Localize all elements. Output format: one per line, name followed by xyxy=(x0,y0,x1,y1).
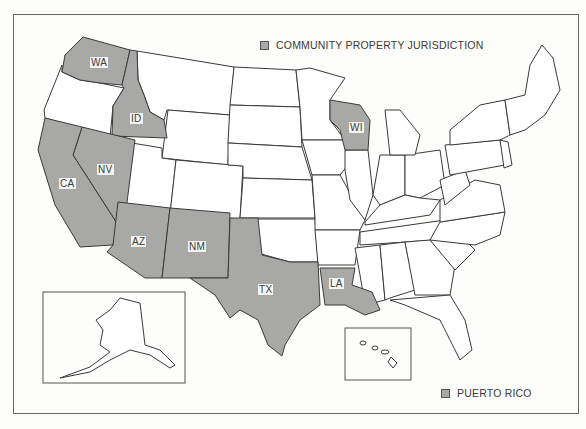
legend-community-property: COMMUNITY PROPERTY JURISDICTION xyxy=(260,39,483,51)
state-new-england xyxy=(505,45,560,135)
label-nv: NV xyxy=(97,164,114,175)
label-wa: WA xyxy=(90,57,108,68)
label-ca: CA xyxy=(59,178,76,189)
inset-hawaii xyxy=(345,328,411,380)
state-sd xyxy=(228,105,302,147)
label-nm: NM xyxy=(188,241,206,252)
state-pa xyxy=(445,140,505,175)
state-ny xyxy=(450,100,510,145)
label-la: LA xyxy=(329,278,344,289)
state-oh xyxy=(405,150,445,198)
state-ks xyxy=(240,178,315,218)
legend-community-label: COMMUNITY PROPERTY JURISDICTION xyxy=(276,39,483,51)
label-tx: TX xyxy=(258,284,273,295)
state-mt xyxy=(137,51,234,120)
legend-puerto-rico: PUERTO RICO xyxy=(441,387,532,399)
alaska-shape xyxy=(60,298,175,378)
label-az: AZ xyxy=(131,236,146,247)
state-wy xyxy=(162,110,230,165)
puerto-rico-label: PUERTO RICO xyxy=(457,387,532,399)
state-mi xyxy=(385,110,420,155)
puerto-rico-swatch-icon xyxy=(441,389,450,398)
label-wi: WI xyxy=(349,122,364,133)
legend-swatch-icon xyxy=(260,41,269,50)
us-map xyxy=(0,0,586,429)
state-nd xyxy=(230,67,300,107)
state-ar xyxy=(315,230,360,265)
label-id: ID xyxy=(130,113,143,124)
